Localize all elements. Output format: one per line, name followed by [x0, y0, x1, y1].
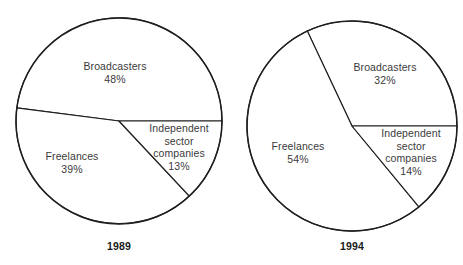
slice-1989-broadcasters	[17, 18, 222, 121]
pie-chart-1994	[247, 21, 457, 231]
pie-chart-1989	[16, 18, 222, 224]
chart-title-1994: 1994	[318, 240, 386, 252]
figure-canvas: Broadcasters 48% Freelances 39% Independ…	[0, 0, 463, 265]
chart-title-1989: 1989	[85, 240, 153, 252]
pie-charts-svg	[0, 0, 463, 265]
